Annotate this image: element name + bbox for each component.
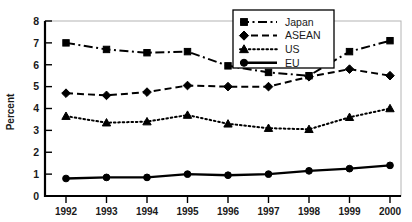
x-tick-label: 1998 bbox=[298, 206, 321, 217]
y-axis-title: Percent bbox=[5, 93, 16, 130]
data-point-marker bbox=[386, 104, 394, 111]
y-tick-label: 7 bbox=[33, 37, 39, 49]
series-eu bbox=[63, 162, 394, 182]
line-chart: 012345678 199219931994199519961997199819… bbox=[0, 0, 412, 222]
y-tick-label: 2 bbox=[33, 146, 39, 158]
y-tick-label: 5 bbox=[33, 80, 39, 92]
data-point-marker bbox=[103, 174, 110, 181]
y-axis-tick-labels: 012345678 bbox=[33, 15, 39, 202]
data-point-marker bbox=[306, 167, 313, 174]
data-series-group bbox=[62, 37, 395, 181]
data-point-marker bbox=[62, 89, 71, 98]
legend-label: ASEAN bbox=[285, 29, 321, 41]
data-point-marker bbox=[386, 71, 395, 80]
data-point-marker bbox=[62, 112, 70, 119]
data-point-marker bbox=[387, 162, 394, 169]
series-japan bbox=[63, 37, 393, 78]
data-point-marker bbox=[184, 48, 190, 54]
x-tick-label: 1999 bbox=[338, 206, 361, 217]
data-point-marker bbox=[346, 165, 353, 172]
data-point-marker bbox=[265, 69, 271, 75]
y-tick-label: 6 bbox=[33, 59, 39, 71]
legend-label: Japan bbox=[285, 16, 314, 28]
data-point-marker bbox=[63, 40, 69, 46]
y-tick-label: 0 bbox=[33, 190, 39, 202]
chart-canvas: 012345678 199219931994199519961997199819… bbox=[0, 0, 412, 222]
series-us bbox=[62, 104, 394, 132]
data-point-marker bbox=[143, 88, 152, 97]
y-tick-label: 8 bbox=[33, 15, 39, 27]
legend-label: US bbox=[285, 43, 300, 55]
data-point-marker bbox=[103, 46, 109, 52]
data-point-marker bbox=[144, 174, 151, 181]
data-point-marker bbox=[346, 48, 352, 54]
data-point-marker bbox=[240, 59, 247, 66]
y-tick-label: 4 bbox=[33, 102, 39, 114]
data-point-marker bbox=[225, 63, 231, 69]
x-tick-label: 2000 bbox=[379, 206, 402, 217]
data-point-marker bbox=[183, 81, 192, 90]
x-tick-label: 1996 bbox=[217, 206, 240, 217]
y-tick-label: 1 bbox=[33, 168, 39, 180]
data-point-marker bbox=[387, 37, 393, 43]
data-point-marker bbox=[241, 19, 248, 26]
x-tick-label: 1994 bbox=[136, 206, 159, 217]
data-point-marker bbox=[102, 91, 111, 100]
data-point-marker bbox=[345, 65, 354, 74]
data-point-marker bbox=[225, 172, 232, 179]
x-tick-label: 1992 bbox=[55, 206, 78, 217]
data-point-marker bbox=[265, 171, 272, 178]
x-tick-label: 1993 bbox=[95, 206, 118, 217]
data-point-marker bbox=[224, 82, 233, 91]
legend-label: EU bbox=[285, 57, 300, 69]
x-axis-tick-labels: 199219931994199519961997199819992000 bbox=[55, 206, 402, 217]
chart-legend: JapanASEANUSEU bbox=[233, 10, 334, 69]
y-tick-label: 3 bbox=[33, 124, 39, 136]
data-point-marker bbox=[184, 171, 191, 178]
series-asean bbox=[62, 65, 395, 100]
data-point-marker bbox=[63, 175, 70, 182]
data-point-marker bbox=[144, 50, 150, 56]
data-point-marker bbox=[264, 82, 273, 91]
x-tick-label: 1995 bbox=[176, 206, 199, 217]
x-tick-label: 1997 bbox=[257, 206, 280, 217]
